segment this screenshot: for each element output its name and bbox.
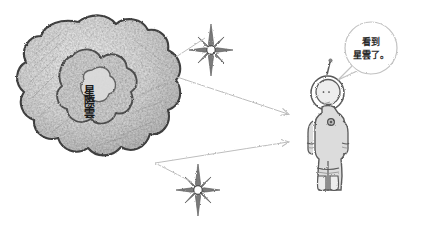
arrow-lower — [155, 142, 288, 182]
sparkle-star-upper — [189, 24, 233, 76]
speech-bubble-line-2: 星雲了。 — [345, 49, 397, 62]
illustration-canvas: 星 際 雲 看到 星雲了。 — [0, 0, 425, 228]
cloud-label-char-3: 雲 — [80, 108, 98, 119]
sparkle-star-lower — [176, 164, 220, 216]
sketch-artwork — [0, 0, 425, 228]
speech-bubble-line-1: 看到 — [345, 36, 397, 49]
speech-bubble-text: 看到 星雲了。 — [345, 36, 397, 62]
cloud-label: 星 際 雲 — [80, 86, 98, 120]
astronaut-figure — [307, 59, 349, 191]
interstellar-cloud — [17, 15, 180, 155]
